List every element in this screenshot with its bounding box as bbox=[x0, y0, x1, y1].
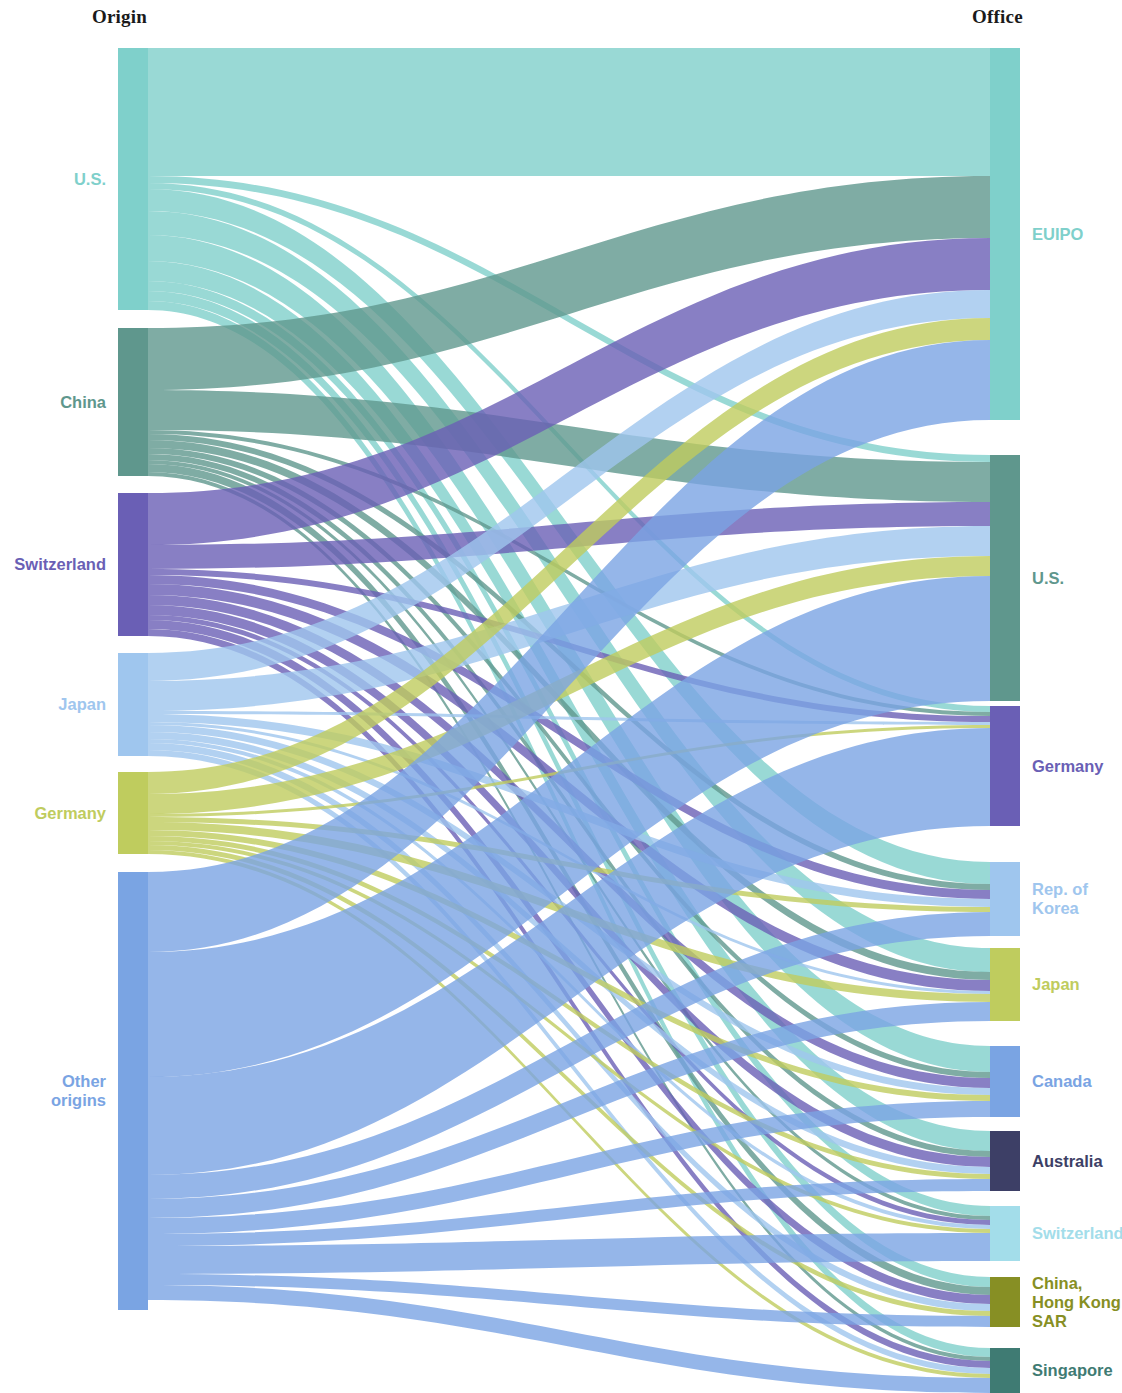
sankey-links bbox=[148, 48, 990, 1393]
sankey-node-d_sg[interactable] bbox=[990, 1348, 1020, 1393]
sankey-node-o_ch[interactable] bbox=[118, 493, 148, 636]
node-label-d_euipo: EUIPO bbox=[1032, 225, 1122, 244]
sankey-node-d_kr[interactable] bbox=[990, 862, 1020, 936]
node-label-d_sg: Singapore bbox=[1032, 1361, 1122, 1380]
node-label-d_au: Australia bbox=[1032, 1152, 1122, 1171]
sankey-node-d_hk[interactable] bbox=[990, 1277, 1020, 1327]
sankey-link bbox=[148, 48, 990, 176]
sankey-node-d_de[interactable] bbox=[990, 706, 1020, 826]
node-label-d_us: U.S. bbox=[1032, 569, 1122, 588]
node-label-d_kr: Rep. of Korea bbox=[1032, 880, 1122, 918]
sankey-node-d_au[interactable] bbox=[990, 1131, 1020, 1191]
node-label-o_jp: Japan bbox=[0, 695, 106, 714]
node-label-d_de: Germany bbox=[1032, 757, 1122, 776]
node-label-d_jp: Japan bbox=[1032, 975, 1122, 994]
sankey-diagram: Origin Office U.S.ChinaSwitzerlandJapanG… bbox=[0, 0, 1122, 1393]
sankey-node-d_euipo[interactable] bbox=[990, 48, 1020, 420]
sankey-node-d_ch[interactable] bbox=[990, 1206, 1020, 1261]
sankey-node-o_other[interactable] bbox=[118, 872, 148, 1310]
node-label-o_ch: Switzerland bbox=[0, 555, 106, 574]
sankey-node-o_jp[interactable] bbox=[118, 653, 148, 756]
sankey-node-o_cn[interactable] bbox=[118, 328, 148, 476]
node-label-d_ca: Canada bbox=[1032, 1072, 1122, 1091]
sankey-node-d_ca[interactable] bbox=[990, 1046, 1020, 1117]
sankey-node-d_us[interactable] bbox=[990, 455, 1020, 701]
node-label-d_hk: China, Hong Kong SAR bbox=[1032, 1274, 1122, 1330]
node-label-d_ch: Switzerland bbox=[1032, 1224, 1122, 1243]
node-label-o_cn: China bbox=[0, 393, 106, 412]
node-label-o_other: Other origins bbox=[0, 1072, 106, 1110]
node-label-o_de: Germany bbox=[0, 804, 106, 823]
sankey-node-d_jp[interactable] bbox=[990, 948, 1020, 1021]
sankey-node-o_de[interactable] bbox=[118, 772, 148, 854]
sankey-canvas bbox=[0, 0, 1122, 1393]
node-label-o_us: U.S. bbox=[0, 170, 106, 189]
sankey-node-o_us[interactable] bbox=[118, 48, 148, 310]
